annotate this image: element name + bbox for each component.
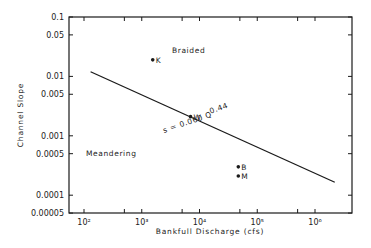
x-tick-label: 10⁶ bbox=[308, 218, 321, 227]
x-axis-title: Bankfull Discharge (cfs) bbox=[156, 227, 264, 236]
y-tick-label: 0.0001 bbox=[36, 191, 64, 200]
y-tick-label: 0.005 bbox=[41, 90, 64, 99]
equation-text: s = 0.060 Q bbox=[162, 110, 213, 135]
chart: 0.10.050.010.0050.0010.00050.00010.00005… bbox=[0, 0, 371, 248]
data-point-b bbox=[237, 165, 241, 169]
meandering-label: Meandering bbox=[86, 149, 137, 158]
equation-exponent: -0.44 bbox=[205, 101, 229, 117]
y-tick-label: 0.1 bbox=[51, 13, 64, 22]
y-tick-label: 0.0005 bbox=[36, 150, 64, 159]
regression-line bbox=[91, 72, 335, 183]
point-label-m: M bbox=[241, 172, 247, 181]
data-point-m bbox=[237, 174, 241, 178]
x-tick-label: 10⁴ bbox=[193, 218, 206, 227]
braided-label: Braided bbox=[172, 46, 205, 55]
y-tick-label: 0.001 bbox=[41, 132, 64, 141]
x-tick-label: 10⁵ bbox=[251, 218, 264, 227]
y-tick-label: 0.01 bbox=[46, 72, 64, 81]
x-tick-label: 10² bbox=[77, 218, 90, 227]
y-tick-label: 0.00005 bbox=[31, 209, 64, 218]
y-tick-label: 0.05 bbox=[46, 31, 64, 40]
y-axis-title: Channel Slope bbox=[16, 83, 25, 147]
x-tick-label: 10³ bbox=[135, 218, 148, 227]
point-label-b: B bbox=[241, 163, 246, 172]
data-point-k bbox=[151, 58, 155, 62]
point-label-k: K bbox=[156, 56, 162, 65]
